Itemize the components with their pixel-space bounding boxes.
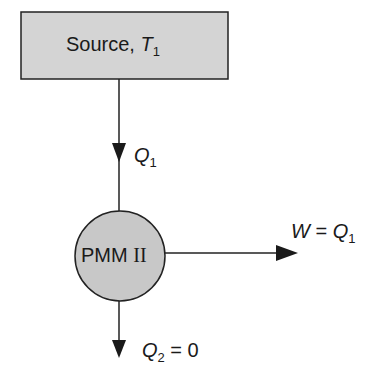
q1-label: Q1: [134, 144, 157, 170]
diagram-canvas: [0, 0, 386, 387]
engine-label: PMM II: [81, 244, 147, 267]
q2-label: Q2 = 0: [142, 339, 199, 365]
source-label: Source, T1: [66, 33, 160, 59]
q1-arrowhead-icon: [112, 143, 126, 162]
work-label: W = Q1: [291, 220, 355, 246]
work-arrowhead-icon: [276, 245, 298, 261]
q2-arrowhead-icon: [112, 340, 126, 358]
